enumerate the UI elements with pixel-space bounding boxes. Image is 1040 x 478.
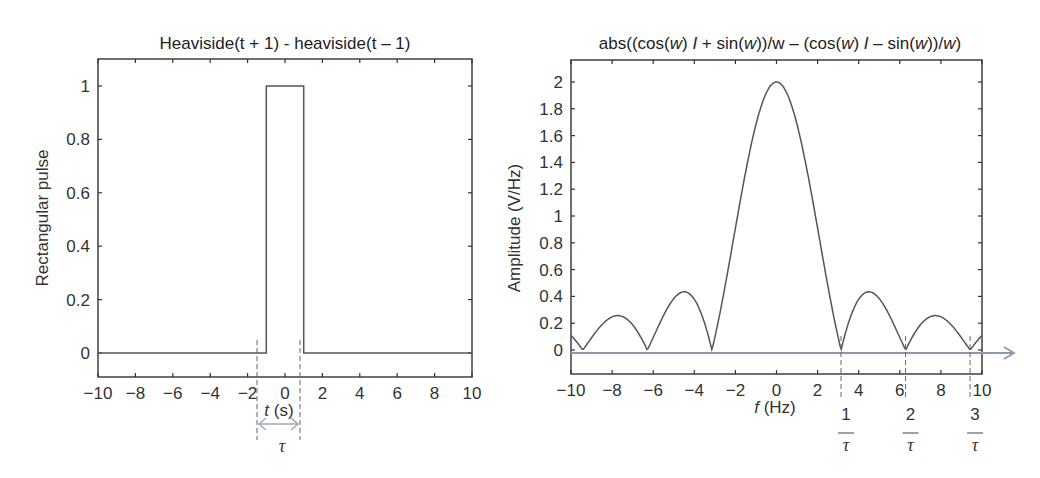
right-chart-title: abs((cos(w) I + sin(w))/w – (cos(w) I – … [599, 34, 961, 53]
x-tick-label: −6 [644, 381, 663, 400]
right-y-axis-label: Amplitude (V/Hz) [505, 164, 524, 292]
left-y-ticks: 00.20.40.60.81 [66, 77, 472, 363]
x-tick-label: −2 [726, 381, 745, 400]
tau-label: τ [279, 436, 286, 456]
figure: Heaviside(t + 1) - heaviside(t – 1) −10−… [0, 0, 1040, 478]
y-tick-label: 0.6 [539, 261, 563, 280]
y-tick-label: 2 [554, 73, 563, 92]
y-tick-label: 0.4 [539, 287, 563, 306]
x-tick-label: −4 [201, 384, 220, 403]
y-tick-label: 0.8 [539, 234, 563, 253]
right-x-axis-label: f (Hz) [754, 398, 796, 417]
x-tick-label: 8 [430, 384, 439, 403]
y-tick-label: 0.2 [66, 291, 90, 310]
x-tick-label: 2 [318, 384, 327, 403]
x-tick-label: 4 [854, 381, 863, 400]
right-x-ticks: −10−8−6−4−20246810 [557, 60, 992, 400]
y-tick-label: 0.8 [66, 130, 90, 149]
zero-marker-denominator: τ [907, 435, 914, 455]
x-tick-label: 6 [392, 384, 401, 403]
left-chart-title: Heaviside(t + 1) - heaviside(t – 1) [160, 34, 411, 53]
zero-marker-denominator: τ [843, 435, 850, 455]
y-tick-label: 1 [554, 207, 563, 226]
y-tick-label: 0 [81, 344, 90, 363]
x-tick-label: −2 [238, 384, 257, 403]
right-series-line [571, 82, 982, 349]
zero-marker-denominator: τ [972, 435, 979, 455]
right-y-ticks: 00.20.40.60.811.21.41.61.82 [539, 73, 982, 360]
left-chart-rectangular-pulse: Heaviside(t + 1) - heaviside(t – 1) −10−… [33, 34, 481, 456]
zero-marker-numerator: 2 [906, 405, 915, 424]
x-tick-label: −6 [163, 384, 182, 403]
left-series-line [98, 86, 472, 353]
left-plot-frame [98, 59, 472, 377]
y-tick-label: 1.4 [539, 153, 563, 172]
left-y-axis-label: Rectangular pulse [33, 149, 52, 286]
y-tick-label: 0.4 [66, 237, 90, 256]
x-tick-label: 10 [463, 384, 482, 403]
y-tick-label: 0.6 [66, 184, 90, 203]
x-tick-label: −10 [557, 381, 586, 400]
zero-marker-numerator: 1 [841, 405, 850, 424]
right-plot-frame [571, 60, 982, 374]
y-tick-label: 1.2 [539, 180, 563, 199]
x-tick-label: 6 [895, 381, 904, 400]
left-x-ticks: −10−8−6−4−20246810 [84, 59, 482, 403]
x-tick-label: 8 [936, 381, 945, 400]
left-x-axis-label: t (s) [264, 401, 293, 420]
x-tick-label: −10 [84, 384, 113, 403]
y-tick-label: 1.8 [539, 100, 563, 119]
y-tick-label: 0 [554, 341, 563, 360]
x-tick-label: 4 [355, 384, 364, 403]
y-tick-label: 1 [81, 77, 90, 96]
x-tick-label: −8 [126, 384, 145, 403]
x-tick-label: 10 [973, 381, 992, 400]
zero-marker-numerator: 3 [970, 405, 979, 424]
y-tick-label: 0.2 [539, 314, 563, 333]
x-tick-label: −8 [602, 381, 621, 400]
x-tick-label: −4 [685, 381, 704, 400]
right-chart-amplitude-spectrum: abs((cos(w) I + sin(w))/w – (cos(w) I – … [505, 34, 1014, 455]
y-tick-label: 1.6 [539, 127, 563, 146]
x-tick-label: 2 [813, 381, 822, 400]
